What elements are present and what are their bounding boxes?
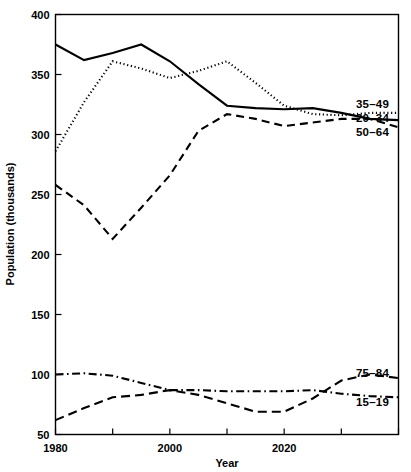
data-series-group: [56, 45, 399, 421]
series-label-group: 35–4920–3450–6475–8415–19: [356, 98, 389, 408]
x-axis: 198020002020: [43, 429, 398, 454]
x-tick-label: 1980: [43, 442, 67, 454]
x-axis-title: Year: [215, 457, 239, 469]
y-tick-label: 400: [31, 9, 49, 21]
plot-frame: [56, 15, 399, 435]
y-tick-label: 150: [31, 309, 49, 321]
y-tick-label: 300: [31, 129, 49, 141]
y-tick-label: 100: [31, 369, 49, 381]
series-label-15-19: 15–19: [356, 396, 389, 408]
population-line-chart: 50100150200250300350400 198020002020 35–…: [0, 0, 411, 472]
y-tick-label: 50: [37, 429, 49, 441]
series-line-75-84: [56, 375, 399, 421]
series-label-75-84: 75–84: [356, 367, 389, 379]
y-axis: 50100150200250300350400: [31, 9, 61, 441]
series-line-15-19: [56, 373, 399, 397]
x-tick-label: 2000: [158, 442, 182, 454]
x-tick-label: 2020: [272, 442, 296, 454]
y-tick-label: 200: [31, 249, 49, 261]
series-line-35-49: [56, 45, 399, 121]
y-tick-label: 350: [31, 69, 49, 81]
y-tick-label: 250: [31, 189, 49, 201]
series-line-50-64: [56, 114, 399, 239]
series-label-50-64: 50–64: [356, 126, 389, 138]
series-label-35-49: 35–49: [356, 98, 389, 110]
series-label-20-34: 20–34: [356, 112, 389, 124]
y-axis-title: Population (thousands): [4, 162, 16, 285]
chart-canvas: 50100150200250300350400 198020002020 35–…: [0, 0, 411, 472]
